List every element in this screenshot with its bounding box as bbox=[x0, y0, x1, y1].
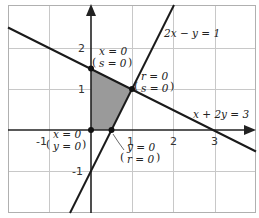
svg-text:x = 0: x = 0 bbox=[99, 45, 127, 57]
diagram-canvas: -1 1 2 3 2 1 -1 2x − y = 1 x + 2y = 3 ( … bbox=[0, 0, 259, 218]
svg-text:(: ( bbox=[46, 138, 50, 151]
y-tick-1: 1 bbox=[78, 83, 85, 96]
svg-text:): ) bbox=[82, 138, 86, 151]
vertex-0-0 bbox=[88, 127, 94, 133]
svg-text:x = 0: x = 0 bbox=[53, 128, 81, 140]
svg-text:(: ( bbox=[92, 56, 96, 69]
y-tick-minus1: -1 bbox=[72, 165, 83, 178]
x-axis-arrow-icon bbox=[244, 125, 256, 135]
svg-text:y = 0: y = 0 bbox=[126, 141, 155, 153]
line-2x-minus-y-eq-1 bbox=[70, 5, 174, 213]
y-tick-2: 2 bbox=[78, 42, 85, 55]
svg-text:s = 0: s = 0 bbox=[99, 57, 127, 69]
vertex-label-0-1.5: ( x = 0 s = 0 ) bbox=[92, 45, 132, 69]
equation-label-x-2y: x + 2y = 3 bbox=[193, 108, 249, 120]
vertex-label-0.5-0: ( y = 0 r = 0 ) bbox=[120, 141, 160, 165]
x-tick-2: 2 bbox=[170, 135, 177, 148]
x-tick-3: 3 bbox=[211, 135, 218, 148]
svg-text:(: ( bbox=[134, 80, 138, 93]
vertex-0.5-0 bbox=[109, 127, 115, 133]
svg-text:s = 0: s = 0 bbox=[141, 82, 169, 94]
svg-text:): ) bbox=[128, 56, 132, 69]
leader-line bbox=[113, 134, 124, 150]
vertex-label-1-1: ( r = 0 s = 0 ) bbox=[134, 70, 174, 94]
svg-text:y = 0: y = 0 bbox=[52, 140, 81, 152]
svg-text:r = 0: r = 0 bbox=[127, 153, 154, 165]
svg-text:): ) bbox=[156, 151, 160, 164]
svg-text:): ) bbox=[170, 80, 174, 93]
svg-text:(: ( bbox=[120, 151, 124, 164]
svg-text:r = 0: r = 0 bbox=[141, 70, 168, 82]
vertex-label-0-0: ( x = 0 y = 0 ) bbox=[46, 128, 86, 152]
equation-label-2x-y: 2x − y = 1 bbox=[163, 27, 220, 39]
